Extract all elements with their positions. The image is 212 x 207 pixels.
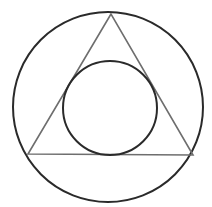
- inscribed-triangle: [28, 14, 193, 155]
- inner-circle: [63, 61, 157, 155]
- geometry-diagram: [0, 0, 212, 207]
- outer-circle: [13, 12, 203, 202]
